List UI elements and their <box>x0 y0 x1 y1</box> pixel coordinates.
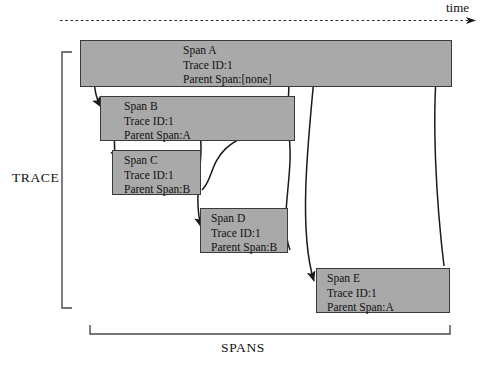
span-a-parent: Parent Span:[none] <box>183 72 271 87</box>
span-b-parent: Parent Span:A <box>124 128 191 143</box>
time-axis-label: time <box>446 0 469 16</box>
span-e-parent: Parent Span:A <box>327 300 394 315</box>
span-e-text: Span E Trace ID:1 Parent Span:A <box>325 271 394 315</box>
span-a-name: Span A <box>183 43 271 58</box>
span-d-parent: Parent Span:B <box>211 240 277 255</box>
span-e-trace-id: Trace ID:1 <box>327 286 394 301</box>
span-d-trace-id: Trace ID:1 <box>211 226 277 241</box>
span-box-b[interactable]: Span B Trace ID:1 Parent Span:A <box>100 96 295 141</box>
trace-label: TRACE <box>12 170 59 186</box>
span-c-name: Span C <box>124 153 190 168</box>
span-b-trace-id: Trace ID:1 <box>124 114 191 129</box>
arrow-e-to-a <box>435 66 444 266</box>
span-b-name: Span B <box>124 99 191 114</box>
span-c-text: Span C Trace ID:1 Parent Span:B <box>122 153 190 197</box>
span-d-name: Span D <box>211 211 277 226</box>
spans-label: SPANS <box>221 340 265 356</box>
diagram-canvas: Span A Trace ID:1 Parent Span:[none] Spa… <box>0 0 483 365</box>
span-e-name: Span E <box>327 271 394 286</box>
span-a-trace-id: Trace ID:1 <box>183 58 271 73</box>
arrow-a-to-e <box>305 58 316 281</box>
span-box-c[interactable]: Span C Trace ID:1 Parent Span:B <box>112 150 201 195</box>
span-c-trace-id: Trace ID:1 <box>124 168 190 183</box>
trace-bracket <box>62 52 72 308</box>
span-box-a[interactable]: Span A Trace ID:1 Parent Span:[none] <box>80 40 452 87</box>
span-box-d[interactable]: Span D Trace ID:1 Parent Span:B <box>200 208 288 253</box>
span-a-text: Span A Trace ID:1 Parent Span:[none] <box>181 43 271 87</box>
spans-bracket <box>90 325 450 334</box>
time-axis-arrow <box>60 17 476 24</box>
span-box-e[interactable]: Span E Trace ID:1 Parent Span:A <box>316 268 450 313</box>
span-d-text: Span D Trace ID:1 Parent Span:B <box>209 211 277 255</box>
span-b-text: Span B Trace ID:1 Parent Span:A <box>122 99 191 143</box>
span-c-parent: Parent Span:B <box>124 182 190 197</box>
